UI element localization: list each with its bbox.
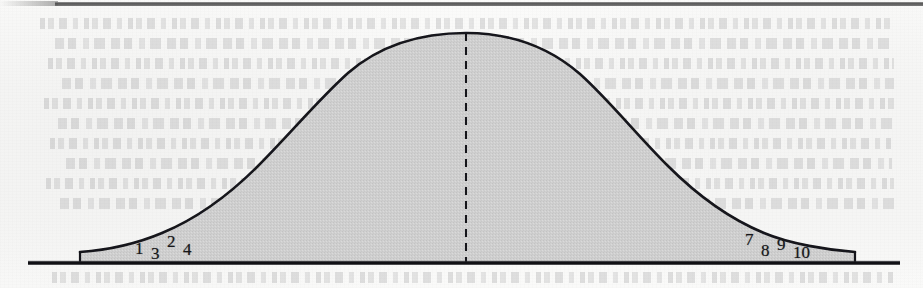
- curve-label-right-9: 9: [777, 236, 786, 253]
- curve-label-left-1: 1: [135, 240, 144, 257]
- curve-label-left-3: 3: [151, 245, 160, 262]
- curve-label-right-8: 8: [761, 242, 770, 259]
- curve-label-left-4: 4: [183, 241, 192, 258]
- curve-label-right-10: 10: [793, 244, 810, 261]
- fill-halftone-modulation: [80, 33, 855, 262]
- scanned-figure-page: 1 3 2 4 7 8 9 10: [0, 0, 923, 288]
- curve-label-right-7: 7: [745, 231, 754, 248]
- curve-label-left-2: 2: [167, 233, 176, 250]
